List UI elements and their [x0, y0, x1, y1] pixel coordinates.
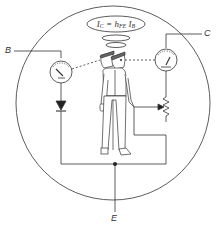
two-faced-man-figure [100, 51, 134, 155]
transistor-analogy-diagram [0, 0, 218, 227]
collector-lead-wire [166, 34, 202, 48]
formula-rhs-sub: B [132, 23, 136, 29]
terminal-label-collector: C [204, 29, 211, 38]
formula-equals: = [104, 19, 115, 29]
base-lead-wire [14, 51, 61, 58]
base-return-wire [61, 107, 166, 164]
current-gain-formula: IC = hFE IB [88, 17, 144, 31]
halo-ring-1 [102, 35, 130, 41]
terminal-label-emitter: E [111, 214, 117, 223]
halo-ring-2 [106, 43, 126, 48]
emitter-junction-node [113, 162, 117, 166]
terminal-label-base: B [5, 46, 11, 55]
base-meter-icon [50, 61, 72, 83]
collector-meter-icon [155, 49, 177, 71]
diode-icon [56, 101, 66, 111]
dashed-gaze-left [72, 60, 100, 69]
variable-resistor-icon [163, 97, 169, 122]
